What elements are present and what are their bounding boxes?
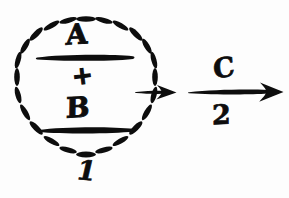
diagram-sketch-layer	[0, 0, 289, 198]
arrow-label-above: C	[212, 52, 236, 82]
numerator-b-label: B	[66, 93, 90, 122]
fraction-bar-lower	[37, 127, 136, 133]
long-reaction-arrow	[188, 82, 284, 101]
numerator-a-label: A	[66, 20, 88, 50]
plus-operator-label: +	[71, 62, 95, 89]
diagram-canvas: A + B 1 C 2	[0, 0, 289, 198]
arrow-label-below: 2	[212, 100, 231, 128]
